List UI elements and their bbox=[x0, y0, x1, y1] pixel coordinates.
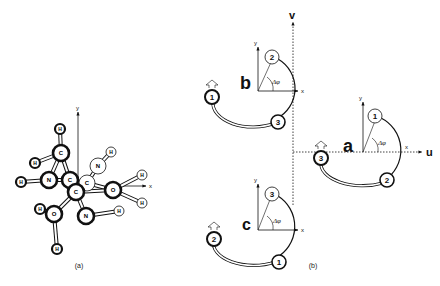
sub-a-arc bbox=[381, 118, 401, 180]
sub-b-radius bbox=[258, 60, 272, 91]
atom-label: H bbox=[140, 172, 144, 178]
atom-label: O bbox=[111, 187, 116, 193]
atom-label: C bbox=[59, 150, 64, 156]
axis-y-label: y bbox=[76, 105, 79, 111]
panel-b-caption: (b) bbox=[309, 262, 318, 270]
axis-x-label: x bbox=[149, 183, 152, 189]
atom-label: O bbox=[52, 211, 57, 217]
panel-b-diagram: v u y x b Δφ 2 3 1 bbox=[205, 9, 433, 270]
sub-b-site-top-label: 2 bbox=[270, 53, 275, 62]
sub-a-site-left-label: 3 bbox=[319, 154, 324, 163]
sub-c-x-label: x bbox=[301, 227, 304, 233]
atom-label: N bbox=[96, 163, 100, 169]
atom-label: H bbox=[33, 160, 37, 166]
sub-b-up-arrow-icon bbox=[206, 80, 218, 88]
sub-b-x-label: x bbox=[301, 88, 304, 94]
atom-label: C bbox=[74, 189, 79, 195]
atom-label: H bbox=[109, 149, 113, 155]
sub-c-site-bottom-label: 1 bbox=[277, 258, 282, 267]
panel-a-caption: (a) bbox=[75, 262, 84, 270]
sub-c-y-label: y bbox=[254, 177, 257, 183]
figure: y x HHCHNCCCNHHOHHONHH (a) v u y x b Δφ bbox=[0, 0, 440, 286]
sub-b-label: b bbox=[240, 73, 251, 93]
sub-a-radius bbox=[363, 121, 375, 152]
sub-c-radius bbox=[258, 197, 271, 230]
sub-c-label: c bbox=[242, 216, 251, 233]
sub-a-up-arrow-icon bbox=[315, 141, 327, 149]
sub-a-x-label: x bbox=[405, 144, 408, 150]
atom-label: N bbox=[84, 213, 88, 219]
sub-a-y-label: y bbox=[359, 95, 362, 101]
panel-a-molecule: y x HHCHNCCCNHHOHHONHH (a) bbox=[16, 105, 152, 270]
sub-c-site-top-label: 3 bbox=[270, 190, 275, 199]
subpanel-a: y x a Δφ 1 2 3 bbox=[314, 95, 408, 187]
sub-c-site-left-label: 2 bbox=[212, 235, 217, 244]
sub-b-angle: Δφ bbox=[271, 78, 280, 86]
sub-a-angle: Δφ bbox=[377, 139, 386, 147]
sub-b-y-label: y bbox=[254, 40, 257, 46]
atom-label: H bbox=[55, 246, 59, 252]
atom-label: H bbox=[58, 126, 62, 132]
sub-b-arc bbox=[276, 59, 295, 119]
atom-label: H bbox=[117, 208, 121, 214]
atom-label: H bbox=[38, 206, 42, 212]
sub-c-return-arc bbox=[214, 240, 275, 265]
axis-v-label: v bbox=[289, 9, 296, 21]
sub-c-arc bbox=[276, 196, 295, 258]
atom-label: N bbox=[47, 177, 51, 183]
sub-c-angle: Δφ bbox=[272, 217, 281, 225]
subpanel-c: y x c Δφ 3 1 2 bbox=[207, 177, 304, 269]
sub-b-site-left-label: 1 bbox=[210, 93, 215, 102]
atom-label: H bbox=[19, 179, 23, 185]
atom-label: C bbox=[85, 180, 90, 186]
axis-u-label: u bbox=[426, 146, 433, 158]
sub-b-return-arc bbox=[213, 101, 275, 127]
atom-label: H bbox=[140, 200, 144, 206]
sub-c-up-arrow-icon bbox=[208, 222, 220, 230]
subpanel-b: y x b Δφ 2 3 1 bbox=[205, 40, 304, 129]
sub-a-label: a bbox=[343, 136, 354, 156]
sub-b-site-bottom-label: 3 bbox=[276, 118, 281, 127]
atoms: HHCHNCCCNHHOHHONHH bbox=[16, 124, 147, 254]
sub-a-return-arc bbox=[321, 162, 383, 186]
sub-a-site-bottom-label: 2 bbox=[385, 176, 390, 185]
sub-a-site-top-label: 1 bbox=[373, 112, 378, 121]
atom-label: C bbox=[68, 177, 73, 183]
